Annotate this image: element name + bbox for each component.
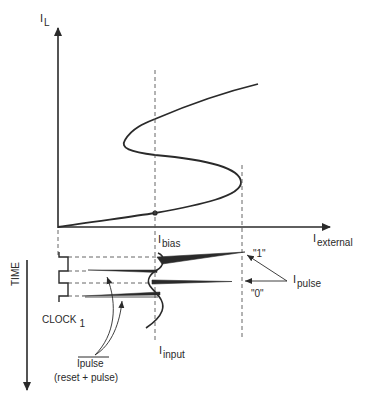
x-axis-label-sub: external xyxy=(317,237,353,248)
clock-waveform xyxy=(59,252,68,302)
ipulse-arrow-1 xyxy=(95,277,113,355)
ipulse-arrow-2 xyxy=(95,301,122,355)
zero-label: "0" xyxy=(251,289,264,299)
pulse-zero-wedge xyxy=(152,280,232,284)
diagram-canvas xyxy=(0,0,373,401)
pulse-one-wedge xyxy=(157,252,245,264)
s-curve xyxy=(58,84,258,227)
reset-pulse-label: (reset + pulse) xyxy=(54,373,118,383)
ipulse-right-label: Ipulse xyxy=(293,274,321,285)
ipulse-right-label-main: I xyxy=(293,273,296,285)
clock-label: CLOCK1 xyxy=(42,315,85,325)
clock-label-sub: 1 xyxy=(79,318,85,329)
iinput-label-main: I xyxy=(159,344,162,356)
ipulse-right-label-sub: pulse xyxy=(297,278,321,289)
ipulse-bottom-label: Ipulse xyxy=(77,359,104,369)
x-axis-label: Iexternal xyxy=(313,233,353,244)
clock-label-main: CLOCK xyxy=(42,314,76,325)
y-axis-label-sub: L xyxy=(44,17,50,28)
x-axis-label-main: I xyxy=(313,232,316,244)
ibias-label-sub: bias xyxy=(162,238,180,249)
one-label: "1" xyxy=(253,249,266,259)
y-axis-label-main: I xyxy=(40,12,43,24)
iinput-label-sub: input xyxy=(163,349,185,360)
y-axis-label: IL xyxy=(40,13,50,24)
time-label: TIME xyxy=(11,286,35,296)
reset-wedge-1 xyxy=(88,270,157,273)
time-label-text: TIME xyxy=(11,262,21,286)
iinput-label: Iinput xyxy=(159,345,185,356)
reset-wedge-2 xyxy=(82,292,160,296)
ibias-label: Ibias xyxy=(158,234,180,245)
ibias-label-main: I xyxy=(158,233,161,245)
